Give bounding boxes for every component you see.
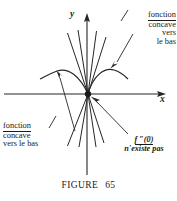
origin-point (85, 91, 91, 97)
figure-65-container: y x fonction concave vers le bas fonctio… (0, 0, 177, 201)
right-concave-arc (88, 69, 128, 94)
y-axis-label: y (70, 10, 74, 20)
figure-caption-word: FIGURE (61, 180, 98, 190)
figure-caption-number: 65 (105, 180, 115, 190)
ray-up-left (68, 33, 89, 94)
callout-top-right-line4: le bas (118, 38, 176, 47)
leader-derivative (96, 101, 128, 134)
callout-concave-down-right: fonction concave vers le bas (118, 11, 176, 46)
left-callout-arrowhead (57, 71, 64, 80)
callout-deriv-line2: n'existe pas (112, 145, 176, 153)
callout-second-derivative-undefined: f ″(0) n'existe pas (112, 136, 176, 154)
callout-bottom-left-line3: vers le bas (3, 140, 77, 149)
derivative-arrowhead (91, 97, 101, 105)
ray-down-right-inner (88, 94, 96, 147)
x-axis-label: x (160, 95, 165, 105)
ray-up-right-inner (88, 31, 97, 94)
callout-concave-down-left: fonction concave vers le bas (3, 122, 77, 149)
figure-caption: FIGURE65 (0, 180, 177, 190)
